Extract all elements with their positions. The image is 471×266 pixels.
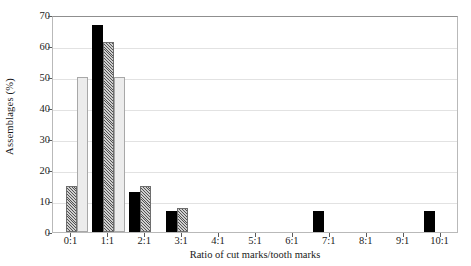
x-axis-tick-mark	[366, 233, 367, 237]
x-axis-tick-mark	[107, 233, 108, 237]
bar	[313, 211, 324, 232]
bar	[77, 77, 88, 232]
x-axis-tick-mark	[292, 233, 293, 237]
x-axis-tick-label: 3:1	[161, 236, 201, 247]
y-axis-tick-mark	[48, 233, 52, 234]
x-axis-tick-label: 9:1	[383, 236, 423, 247]
x-axis-tick-mark	[70, 233, 71, 237]
x-axis-tick-label: 1:1	[87, 236, 127, 247]
y-axis-tick-label: 70	[10, 11, 50, 22]
y-axis-tick-label: 50	[10, 73, 50, 84]
x-axis-tick-mark	[403, 233, 404, 237]
bar	[424, 211, 435, 232]
bar	[92, 25, 103, 232]
x-axis-tick-mark	[329, 233, 330, 237]
x-axis-tick-mark	[255, 233, 256, 237]
y-axis-tick-label: 10	[10, 197, 50, 208]
bar	[114, 77, 125, 232]
y-axis-tick-label: 0	[10, 228, 50, 239]
bar	[129, 192, 140, 232]
x-axis-tick-label: 5:1	[235, 236, 275, 247]
bar-chart-figure: Assemblages (%) 010203040506070 0:11:12:…	[0, 0, 471, 266]
y-axis-tick-label: 40	[10, 104, 50, 115]
bar	[66, 186, 77, 233]
x-axis-tick-label: 10:1	[420, 236, 460, 247]
x-axis-tick-label: 0:1	[50, 236, 90, 247]
x-axis-tick-mark	[181, 233, 182, 237]
y-axis-tick-label: 30	[10, 135, 50, 146]
y-axis-tick-label: 60	[10, 42, 50, 53]
bar	[177, 208, 188, 232]
y-axis-tick-label: 20	[10, 166, 50, 177]
plot-area	[52, 16, 458, 233]
x-axis-tick-mark	[218, 233, 219, 237]
x-axis-tick-mark	[144, 233, 145, 237]
x-axis-tick-label: 4:1	[198, 236, 238, 247]
bar	[103, 42, 114, 232]
x-axis-tick-label: 2:1	[124, 236, 164, 247]
x-axis-title: Ratio of cut marks/tooth marks	[52, 249, 458, 260]
bar	[166, 211, 177, 232]
x-axis-tick-label: 8:1	[346, 236, 386, 247]
x-axis-tick-label: 6:1	[272, 236, 312, 247]
x-axis-tick-label: 7:1	[309, 236, 349, 247]
x-axis-tick-mark	[440, 233, 441, 237]
bar	[140, 186, 151, 233]
